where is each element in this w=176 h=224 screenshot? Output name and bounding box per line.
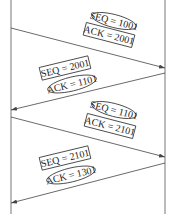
message-2: SEQ = 2001 ACK = 1101 [11,56,165,110]
message-4: SEQ = 2101 ACK = 1301 [11,146,165,203]
tcp-sequence-diagram: SEQ = 1001 ACK = 2001 SEQ = 2001 ACK = 1… [0,0,176,224]
